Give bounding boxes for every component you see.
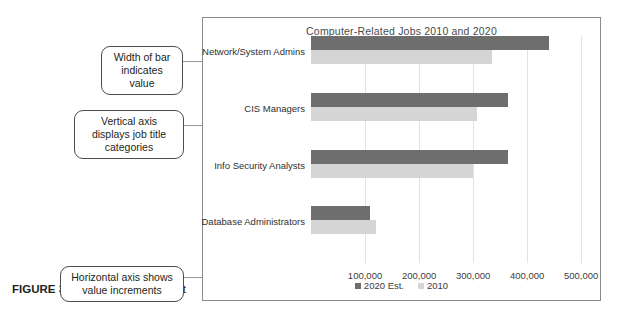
category-label: Info Security Analysts (214, 160, 311, 171)
category-label: Network/System Admins (202, 46, 311, 57)
bar-2020-est- (311, 36, 549, 50)
bar-2020-est- (311, 150, 508, 164)
legend-label: 2010 (427, 280, 448, 291)
callout-vertical-axis: Vertical axis displays job title categor… (74, 110, 184, 159)
bar-group: CIS Managers (311, 93, 592, 150)
legend-swatch-icon (355, 283, 361, 289)
callout-width-of-bar: Width of bar indicates value (101, 46, 183, 95)
bar-group: Database Administrators (311, 206, 592, 263)
legend-label: 2020 Est. (364, 280, 404, 291)
callout-horizontal-axis: Horizontal axis shows value increments (60, 266, 184, 302)
bar-group: Network/System Admins (311, 36, 592, 93)
chart-legend: 2020 Est.2010 (203, 280, 600, 291)
bar-group: Info Security Analysts (311, 150, 592, 207)
category-label: CIS Managers (244, 103, 311, 114)
plot-area: Network/System AdminsCIS ManagersInfo Se… (311, 36, 592, 263)
leader-line-width-callout (183, 61, 203, 62)
bar-2020-est- (311, 206, 370, 220)
legend-swatch-icon (418, 283, 424, 289)
bar-2010 (311, 220, 376, 234)
bar-2010 (311, 107, 477, 121)
legend-item: 2010 (418, 280, 448, 291)
bar-2010 (311, 164, 473, 178)
category-label: Database Administrators (202, 216, 312, 227)
leader-line-vaxis-callout (184, 125, 203, 126)
chart-frame: Computer-Related Jobs 2010 and 2020 Netw… (202, 17, 601, 301)
bar-2010 (311, 50, 492, 64)
legend-item: 2020 Est. (355, 280, 404, 291)
bar-2020-est- (311, 93, 508, 107)
